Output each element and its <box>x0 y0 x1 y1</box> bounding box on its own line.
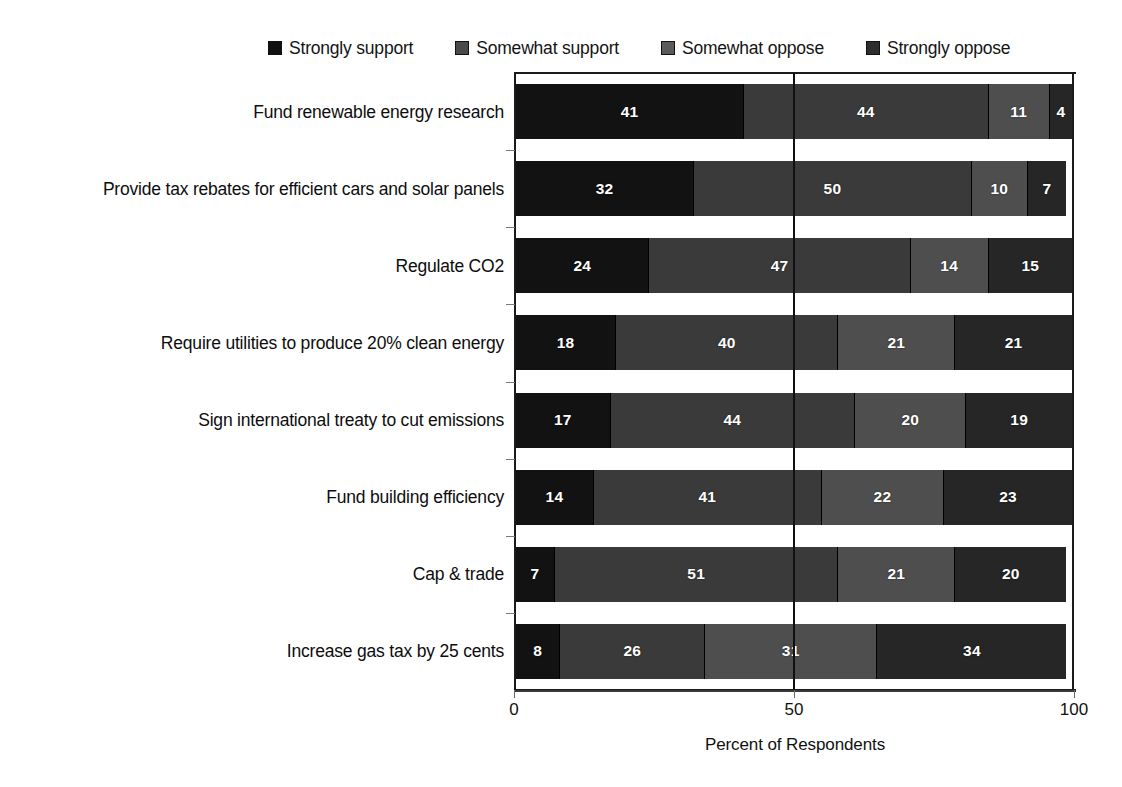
bar-segment-value: 19 <box>1010 411 1028 429</box>
bar-segment-value: 14 <box>940 257 958 275</box>
bar-segment[interactable]: 47 <box>649 238 910 293</box>
bar-segment[interactable]: 14 <box>516 470 594 525</box>
y-axis-tick <box>506 304 515 305</box>
y-axis-tick <box>506 227 515 228</box>
x-axis-line <box>514 690 1076 692</box>
bar-segment[interactable]: 8 <box>516 624 560 679</box>
bar-segment[interactable]: 11 <box>989 84 1050 139</box>
bar-segment[interactable]: 20 <box>955 547 1066 602</box>
category-axis-labels: Fund renewable energy researchProvide ta… <box>60 73 504 690</box>
x-axis-tick-label: 50 <box>785 700 804 720</box>
y-axis-tick <box>506 536 515 537</box>
bar-segment[interactable]: 21 <box>955 315 1072 370</box>
bar-segment[interactable]: 20 <box>855 393 966 448</box>
bar-segment-value: 47 <box>771 257 789 275</box>
bar-segment-value: 10 <box>990 180 1008 198</box>
x-axis-tick <box>514 690 515 698</box>
y-axis-tick <box>506 459 515 460</box>
y-axis-tick <box>506 150 515 151</box>
category-label: Fund building efficiency <box>60 487 504 507</box>
bar-segment[interactable]: 32 <box>516 161 694 216</box>
bar-segment-value: 34 <box>963 642 981 660</box>
bar-segment-value: 18 <box>557 334 575 352</box>
x-axis-title: Percent of Respondents <box>514 735 1076 755</box>
bar-segment-value: 44 <box>724 411 742 429</box>
category-label: Provide tax rebates for efficient cars a… <box>60 179 504 199</box>
bar-segment[interactable]: 21 <box>838 315 955 370</box>
legend-item-1[interactable]: Somewhat support <box>455 38 619 58</box>
bar-segment[interactable]: 14 <box>911 238 989 293</box>
stacked-bar-chart: Strongly supportSomewhat supportSomewhat… <box>0 0 1122 787</box>
legend-item-2[interactable]: Somewhat oppose <box>661 38 824 58</box>
category-label: Cap & trade <box>60 564 504 584</box>
bar-segment[interactable]: 34 <box>877 624 1066 679</box>
category-label: Require utilities to produce 20% clean e… <box>60 333 504 353</box>
bar-segment[interactable]: 17 <box>516 393 611 448</box>
x-axis-tick <box>1074 690 1075 698</box>
bar-segment-value: 51 <box>687 565 705 583</box>
bar-segment-value: 40 <box>718 334 736 352</box>
bar-segment-value: 22 <box>874 488 892 506</box>
legend-label: Somewhat oppose <box>682 38 824 58</box>
bar-segment[interactable]: 4 <box>1050 84 1072 139</box>
bar-segment-value: 41 <box>698 488 716 506</box>
bar-segment-value: 20 <box>901 411 919 429</box>
legend-item-0[interactable]: Strongly support <box>268 38 413 58</box>
bar-segment-value: 32 <box>596 180 614 198</box>
bar-segment-value: 15 <box>1021 257 1039 275</box>
category-label: Increase gas tax by 25 cents <box>60 641 504 661</box>
x-axis-tick <box>794 690 795 698</box>
bar-segment[interactable]: 21 <box>838 547 955 602</box>
bar-segment[interactable]: 31 <box>705 624 877 679</box>
legend-item-3[interactable]: Strongly oppose <box>866 38 1010 58</box>
bar-segment[interactable]: 22 <box>822 470 944 525</box>
bar-segment[interactable]: 51 <box>555 547 839 602</box>
bar-segment[interactable]: 50 <box>694 161 972 216</box>
bar-segment-value: 20 <box>1002 565 1020 583</box>
bar-segment[interactable]: 7 <box>516 547 555 602</box>
bar-segment-value: 24 <box>573 257 591 275</box>
bar-segment-value: 17 <box>554 411 572 429</box>
bar-segment-value: 21 <box>888 565 906 583</box>
legend-swatch-icon <box>661 41 675 55</box>
bar-segment[interactable]: 26 <box>560 624 705 679</box>
bar-segment-value: 14 <box>546 488 564 506</box>
chart-legend: Strongly supportSomewhat supportSomewhat… <box>268 36 1078 60</box>
bar-segment[interactable]: 7 <box>1028 161 1067 216</box>
y-axis-tick <box>506 382 515 383</box>
bar-segment[interactable]: 18 <box>516 315 616 370</box>
bar-segment[interactable]: 24 <box>516 238 649 293</box>
bar-segment[interactable]: 41 <box>594 470 822 525</box>
category-label: Fund renewable energy research <box>60 102 504 122</box>
bar-segment[interactable]: 44 <box>744 84 989 139</box>
legend-swatch-icon <box>866 41 880 55</box>
gridline-50 <box>793 73 795 690</box>
bar-segment[interactable]: 44 <box>611 393 856 448</box>
bar-segment-value: 26 <box>623 642 641 660</box>
category-label: Regulate CO2 <box>60 256 504 276</box>
bar-segment-value: 44 <box>857 103 875 121</box>
bar-segment-value: 8 <box>533 642 542 660</box>
bar-segment[interactable]: 10 <box>972 161 1028 216</box>
bar-segment[interactable]: 40 <box>616 315 838 370</box>
bar-segment-value: 50 <box>824 180 842 198</box>
bar-segment-value: 21 <box>888 334 906 352</box>
legend-swatch-icon <box>268 41 282 55</box>
bar-segment[interactable]: 23 <box>944 470 1072 525</box>
bar-segment-value: 31 <box>782 642 800 660</box>
bar-segment-value: 41 <box>621 103 639 121</box>
bar-segment-value: 23 <box>999 488 1017 506</box>
bar-segment-value: 4 <box>1056 103 1065 121</box>
legend-swatch-icon <box>455 41 469 55</box>
x-axis-tick-label: 100 <box>1060 700 1088 720</box>
bar-segment[interactable]: 15 <box>989 238 1072 293</box>
bar-segment-value: 21 <box>1005 334 1023 352</box>
y-axis-tick <box>506 613 515 614</box>
bar-segment[interactable]: 19 <box>966 393 1072 448</box>
bar-segment-value: 7 <box>1043 180 1052 198</box>
category-label: Sign international treaty to cut emissio… <box>60 410 504 430</box>
legend-label: Strongly support <box>289 38 413 58</box>
legend-label: Somewhat support <box>476 38 619 58</box>
bar-segment[interactable]: 41 <box>516 84 744 139</box>
bar-segment-value: 7 <box>531 565 540 583</box>
